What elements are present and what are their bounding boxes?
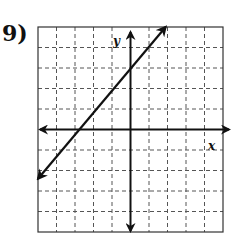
series-line (38, 27, 166, 179)
x-axis-label: x (207, 139, 216, 153)
axes (40, 32, 229, 231)
plotted-line (38, 27, 166, 179)
y-axis-label: y (112, 34, 121, 48)
coordinate-plane: x y (0, 0, 233, 250)
